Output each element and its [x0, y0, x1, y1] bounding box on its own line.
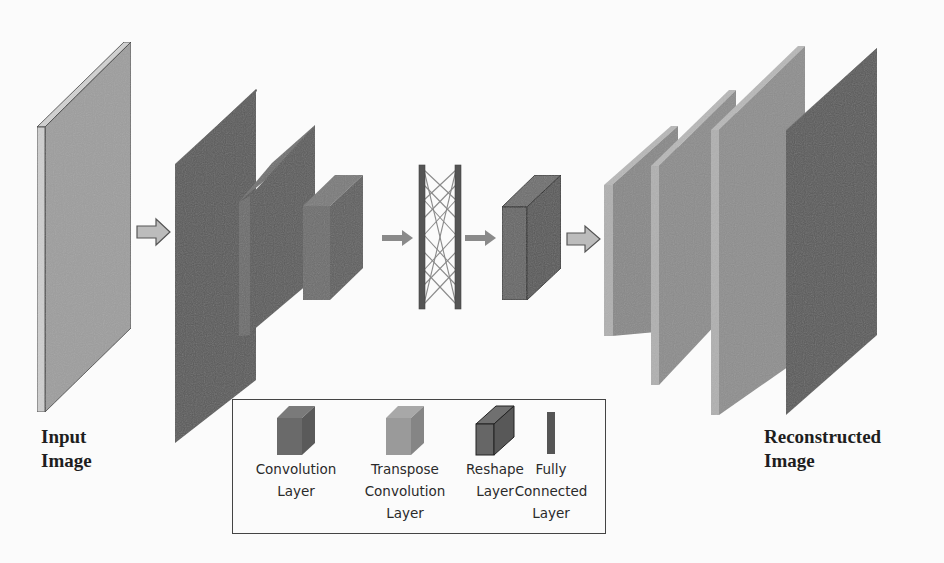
input-label-line: Input [41, 425, 92, 449]
transpose-convolution-cube-icon [380, 400, 430, 458]
fully-connected-layer [419, 165, 461, 309]
legend-box: Convolution Layer Transpose Convolution … [232, 399, 606, 534]
arrow-icon [137, 219, 170, 245]
input-image-plate [37, 42, 131, 412]
legend-label: Fully [495, 458, 607, 480]
legend-label: Convolution [241, 458, 351, 480]
legend-item-fully-connected: Fully Connected Layer [495, 400, 607, 524]
legend-label: Convolution [349, 480, 461, 502]
legend-label: Layer [349, 502, 461, 524]
arrow-icon [567, 226, 600, 252]
legend-label: Connected Layer [495, 480, 607, 524]
arrow-icon [465, 230, 496, 246]
legend-label: Transpose [349, 458, 461, 480]
input-label-line: Image [41, 449, 92, 473]
fully-connected-bar-icon [526, 400, 576, 458]
arrow-icon [382, 230, 413, 246]
convolution-cube-icon [271, 400, 321, 458]
legend-label: Layer [241, 480, 351, 502]
reshape-layer [502, 175, 561, 300]
legend-item-transpose-convolution: Transpose Convolution Layer [349, 400, 461, 524]
output-label-line: Reconstructed [764, 425, 881, 449]
legend-item-convolution: Convolution Layer [241, 400, 351, 502]
input-image-label: Input Image [41, 425, 92, 473]
reconstructed-image-label: Reconstructed Image [764, 425, 881, 473]
output-label-line: Image [764, 449, 881, 473]
